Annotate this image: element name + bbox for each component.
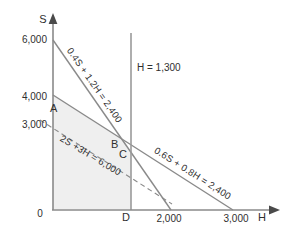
y-tick-6000: 6,000 [22,34,47,45]
x-tick-3000: 3,000 [223,213,248,224]
equation-label-line2: 0.6S + 0.8H = 2,400 [152,145,233,202]
x-tick-2000: 2,000 [156,213,181,224]
vertex-label-D: D [122,211,130,223]
vertex-label-A: A [50,102,58,114]
equation-label-vline: H = 1,300 [137,62,181,73]
vertex-label-B: B [111,138,118,150]
x-axis-arrow-icon [269,206,280,215]
plot-area: S H 0 6,000 4,000 3,000 2,000 3,000 0.4S… [0,0,287,236]
origin-label: 0 [37,208,43,219]
y-axis-label: S [39,13,46,25]
y-tick-3000: 3,000 [22,119,47,130]
x-axis-label: H [258,211,266,223]
y-tick-4000: 4,000 [22,91,47,102]
linear-programming-graph: S H 0 6,000 4,000 3,000 2,000 3,000 0.4S… [0,0,287,236]
y-axis-arrow-icon [49,13,58,24]
vertex-label-C: C [119,148,127,160]
